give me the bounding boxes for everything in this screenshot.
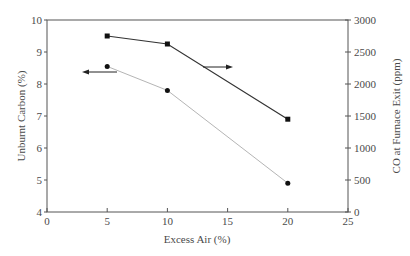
- arrow-left-icon: [82, 70, 117, 75]
- circle-marker-icon: [105, 64, 110, 69]
- y-axis-right-label: CO at Furnace Exit (ppm): [390, 58, 403, 173]
- square-marker-icon: [285, 117, 290, 122]
- y-tick-label: 7: [37, 110, 43, 122]
- y-tick-label: 10: [31, 14, 43, 26]
- square-marker-icon: [105, 34, 110, 39]
- x-tick-label: 5: [104, 215, 110, 227]
- y2-tick-label: 1000: [354, 142, 377, 154]
- series-unburnt-carbon: [105, 64, 291, 186]
- y2-tick-label: 3000: [354, 14, 377, 26]
- x-tick-label: 10: [162, 215, 174, 227]
- x-axis-ticks: 0510152025: [44, 208, 354, 227]
- y2-tick-label: 0: [354, 206, 360, 218]
- x-axis-label: Excess Air (%): [164, 233, 231, 246]
- y-tick-label: 5: [37, 174, 43, 186]
- series-co: [105, 34, 291, 122]
- y2-tick-label: 2000: [354, 78, 377, 90]
- chart: 0510152025 45678910 05001000150020002500…: [0, 0, 410, 256]
- y-axis-left-ticks: 45678910: [31, 14, 47, 218]
- square-marker-icon: [165, 42, 170, 47]
- x-tick-label: 0: [44, 215, 50, 227]
- x-tick-label: 15: [222, 215, 234, 227]
- y-tick-label: 4: [37, 206, 43, 218]
- y-axis-right-ticks: 050010001500200025003000: [345, 14, 377, 218]
- circle-marker-icon: [285, 181, 290, 186]
- y2-tick-label: 2500: [354, 46, 377, 58]
- y2-tick-label: 500: [354, 174, 371, 186]
- x-tick-label: 20: [282, 215, 294, 227]
- y-tick-label: 9: [37, 46, 43, 58]
- x-tick-label: 25: [343, 215, 355, 227]
- y2-tick-label: 1500: [354, 110, 377, 122]
- circle-marker-icon: [165, 88, 170, 93]
- plot-frame: [47, 20, 348, 212]
- y-tick-label: 8: [37, 78, 43, 90]
- y-tick-label: 6: [37, 142, 43, 154]
- y-axis-left-label: Unburnt Carbon (%): [15, 70, 28, 161]
